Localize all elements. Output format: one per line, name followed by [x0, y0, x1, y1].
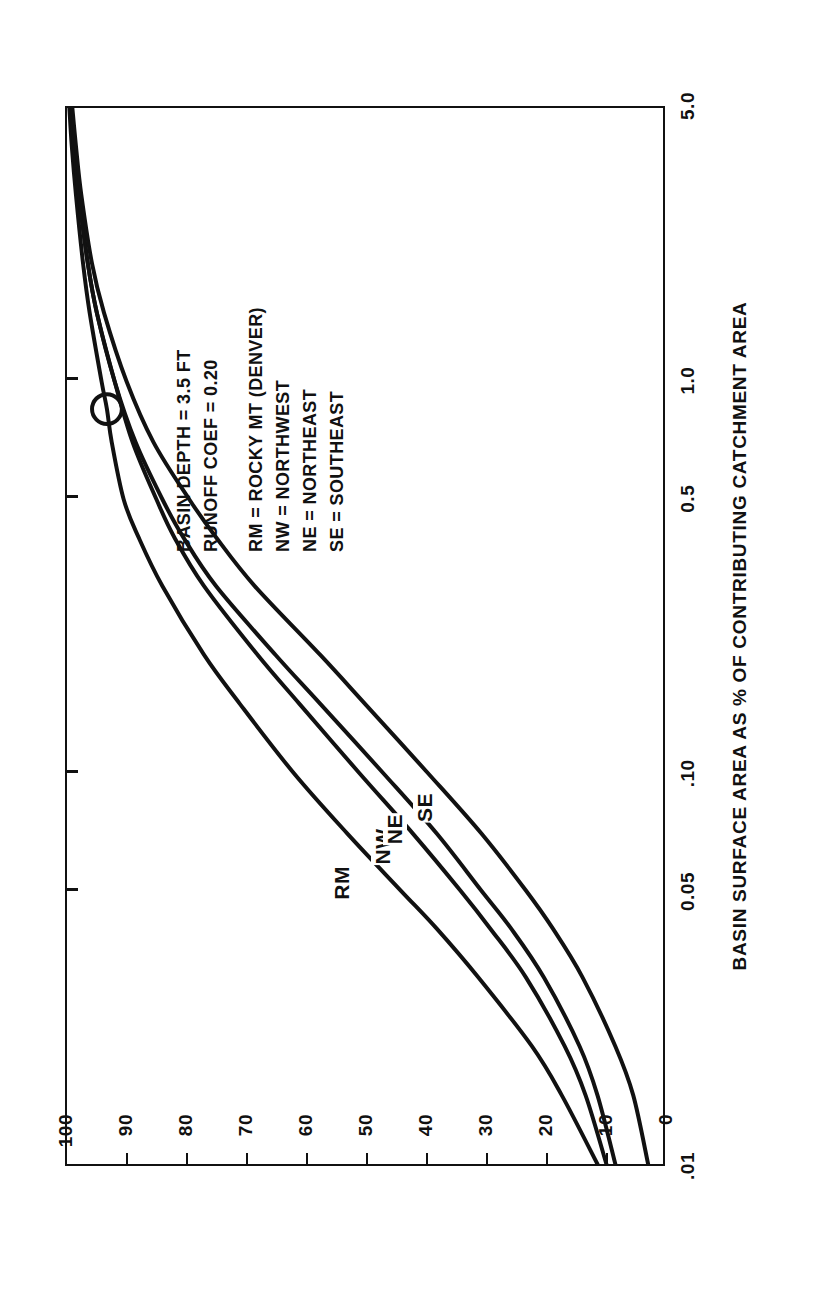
- y-tick-label: 20: [535, 1114, 554, 1174]
- annotation-ne: NE = NORTHEAST: [297, 307, 324, 552]
- plot-area: BASIN DEPTH = 3.5 FT RUNOFF COEF = 0.20 …: [65, 106, 665, 1166]
- annotation-basin-depth: BASIN DEPTH = 3.5 FT: [171, 307, 198, 552]
- chart-figure: LONG TERM AVERAGE % REMOVAL OF URBAN RUN…: [29, 52, 789, 1262]
- x-tick-label: 0.5: [677, 485, 699, 513]
- y-tick-label: 30: [475, 1114, 494, 1174]
- y-tick-label: 60: [295, 1114, 314, 1174]
- y-tick-label: 50: [355, 1114, 374, 1174]
- curve-label-ne: NE: [383, 813, 407, 845]
- x-tick-label: 1.0: [677, 367, 699, 395]
- annotation-nw: NW = NORTHWEST: [270, 307, 297, 552]
- x-tick-label: .01: [677, 1152, 699, 1180]
- x-tick-mark: [65, 496, 78, 499]
- x-tick-label: 0.05: [677, 872, 699, 911]
- x-tick-label: .10: [677, 759, 699, 787]
- curve-rm: [69, 108, 597, 1164]
- annotation-block: BASIN DEPTH = 3.5 FT RUNOFF COEF = 0.20 …: [171, 307, 351, 552]
- y-tick-label: 70: [235, 1114, 254, 1174]
- y-tick-label: 40: [415, 1114, 434, 1174]
- x-tick-mark: [65, 888, 78, 891]
- annotation-rm: RM = ROCKY MT (DENVER): [243, 307, 270, 552]
- annotation-runoff-coef: RUNOFF COEF = 0.20: [198, 307, 225, 552]
- curve-ne: [71, 108, 615, 1164]
- curve-nw: [71, 108, 606, 1164]
- x-tick-mark: [65, 377, 78, 380]
- curve-label-se: SE: [412, 792, 436, 823]
- plot-curves: [67, 108, 663, 1164]
- annotation-se: SE = SOUTHEAST: [324, 307, 351, 552]
- x-tick-mark: [65, 770, 78, 773]
- y-tick-label: 0: [655, 1114, 674, 1174]
- curve-label-rm: RM: [330, 865, 354, 901]
- y-tick-label: 100: [55, 1114, 74, 1174]
- x-axis-title: BASIN SURFACE AREA AS % OF CONTRIBUTING …: [729, 106, 751, 1166]
- x-tick-label: 5.0: [677, 92, 699, 120]
- y-tick-label: 90: [115, 1114, 134, 1174]
- y-tick-label: 10: [595, 1114, 614, 1174]
- figure-rotator: LONG TERM AVERAGE % REMOVAL OF URBAN RUN…: [29, 52, 789, 1262]
- y-tick-label: 80: [175, 1114, 194, 1174]
- annotation-spacer: [225, 307, 243, 552]
